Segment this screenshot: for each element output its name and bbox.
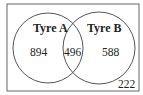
value-a-only: 894 xyxy=(30,46,48,58)
value-intersection: 496 xyxy=(64,46,82,58)
venn-diagram: Tyre A Tyre B 894 496 588 222 xyxy=(0,0,143,95)
label-tyre-a: Tyre A xyxy=(33,21,68,35)
value-b-only: 588 xyxy=(102,46,120,58)
value-outside: 222 xyxy=(118,78,136,90)
label-tyre-b: Tyre B xyxy=(87,21,122,35)
